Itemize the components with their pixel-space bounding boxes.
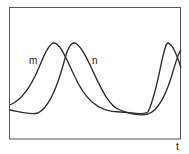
curve-m [10, 43, 181, 114]
plot-frame [10, 8, 181, 140]
label-m: m [29, 56, 37, 66]
label-t-axis: t [176, 142, 179, 152]
diagram-canvas [0, 0, 189, 154]
label-n: n [92, 56, 98, 66]
